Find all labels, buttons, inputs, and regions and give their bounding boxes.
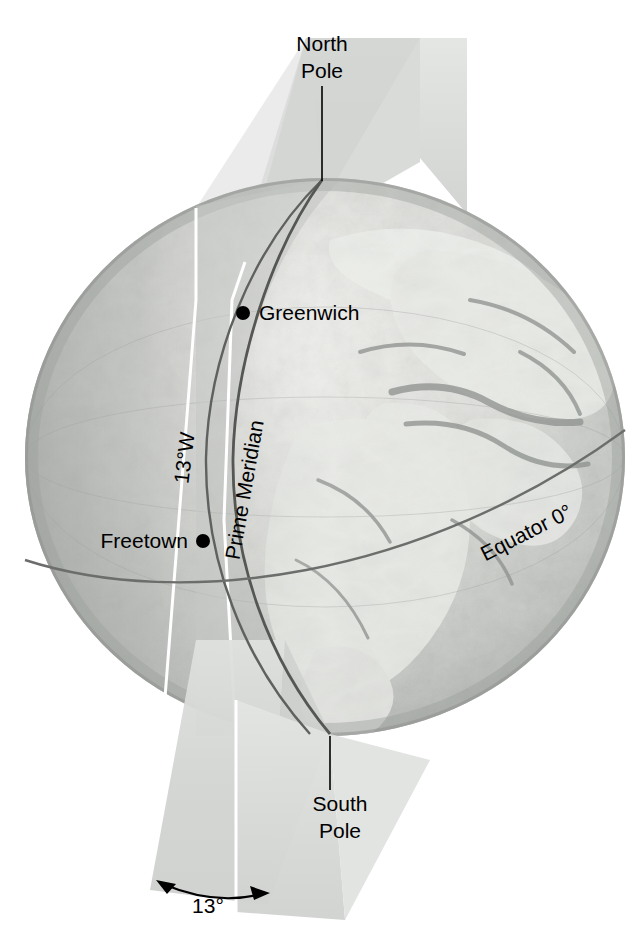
globe [25, 178, 625, 742]
globe-diagram-svg: North Pole South Pole Greenwich Freetown… [0, 0, 636, 941]
north-pole-label-line1: North [296, 32, 347, 55]
south-pole-label-line2: Pole [319, 819, 361, 842]
plane-sheet-right-upper [420, 38, 467, 214]
globe-diagram-figure: North Pole South Pole Greenwich Freetown… [0, 0, 636, 941]
greenwich-label: Greenwich [259, 301, 359, 324]
greenwich-dot [236, 306, 250, 320]
north-pole-label-line2: Pole [301, 59, 343, 82]
angle-label: 13° [192, 894, 224, 917]
south-pole-label-line1: South [313, 792, 368, 815]
freetown-dot [196, 534, 210, 548]
freetown-label: Freetown [100, 529, 188, 552]
